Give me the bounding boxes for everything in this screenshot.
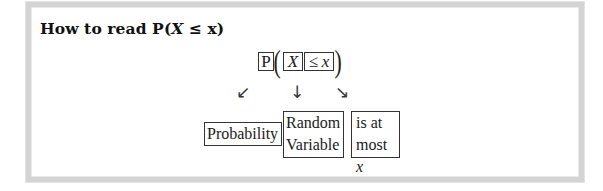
- random-variable-box: X: [283, 52, 303, 71]
- value-variable-symbol: x: [322, 53, 330, 70]
- at-most-label-prefix: most: [356, 136, 387, 153]
- probability-symbol-box: P: [258, 52, 274, 71]
- at-most-label-line2: most x: [356, 134, 395, 178]
- random-variable-label-line1: Random: [286, 112, 341, 134]
- arrow-down-left-icon: ↙: [236, 84, 250, 101]
- arrow-down-icon: ↓: [290, 84, 304, 101]
- at-most-label-variable: x: [356, 158, 363, 175]
- arrow-down-right-icon: ↘: [335, 84, 349, 101]
- open-parenthesis: (: [274, 46, 281, 77]
- heading-suffix: ≤ x): [183, 19, 224, 38]
- random-variable-label-line2: Variable: [286, 134, 341, 156]
- random-variable-symbol: X: [288, 53, 298, 70]
- random-variable-label-box: Random Variable: [283, 111, 344, 158]
- heading-variable: X: [171, 19, 183, 38]
- probability-label-box: Probability: [204, 122, 282, 146]
- probability-label: Probability: [207, 125, 278, 142]
- inequality-box: ≤ x: [304, 52, 334, 71]
- heading-prefix: How to read P(: [40, 19, 171, 38]
- close-parenthesis: ): [335, 46, 342, 77]
- at-most-label-line1: is at: [356, 112, 395, 134]
- less-or-equal-symbol: ≤: [309, 53, 318, 70]
- at-most-label-box: is at most x: [351, 111, 400, 158]
- probability-symbol: P: [261, 53, 270, 70]
- panel-heading: How to read P(X ≤ x): [40, 19, 224, 38]
